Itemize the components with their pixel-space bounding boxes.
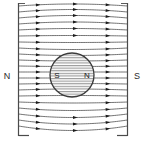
left-plate-pole-label: N (4, 71, 11, 81)
magnet-north-pole-label: N (84, 71, 90, 80)
magnet-south-pole-label: S (54, 71, 59, 80)
fieldline-7 (19, 42, 128, 43)
right-plate-pole-label: S (134, 71, 140, 81)
field-diagram-svg: S N N S (0, 0, 146, 153)
magnetic-field-figure: S N N S (0, 0, 146, 153)
spherical-magnet: S N (50, 53, 94, 97)
